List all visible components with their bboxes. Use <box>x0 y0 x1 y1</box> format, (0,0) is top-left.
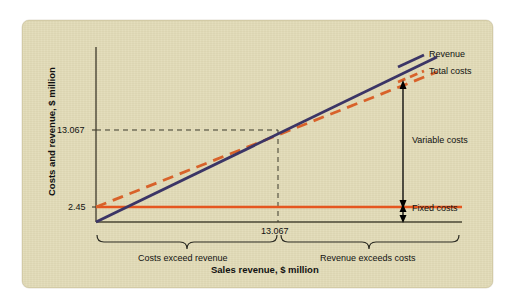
annotation-variable-costs: Variable costs <box>412 135 468 146</box>
region-label-costs-exceed-revenue: Costs exceed revenue <box>138 253 228 264</box>
legend-label-total-costs: Total costs <box>429 66 472 77</box>
revenue-line <box>96 57 437 222</box>
chart-canvas <box>0 0 512 304</box>
figure-stage: Costs and revenue, $ million 13.067 2.45… <box>0 0 512 304</box>
annotation-fixed-costs: Fixed costs <box>412 203 458 214</box>
variable-costs-arrow <box>400 80 407 209</box>
region-label-revenue-exceeds-costs: Revenue exceeds costs <box>320 253 416 264</box>
y-tick-label-upper: 13.067 <box>57 125 85 136</box>
y-axis-title: Costs and revenue, $ million <box>46 67 57 196</box>
right-region-brace <box>281 235 459 249</box>
legend-label-revenue: Revenue <box>429 49 465 60</box>
left-region-brace <box>97 235 277 249</box>
y-tick-label-lower: 2.45 <box>68 202 86 213</box>
x-axis-title: Sales revenue, $ million <box>211 264 319 275</box>
x-tick-label-breakeven: 13.067 <box>261 226 289 237</box>
